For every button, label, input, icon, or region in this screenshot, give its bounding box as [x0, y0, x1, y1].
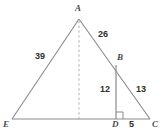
geometry-diagram: A B C D E 26 39 12 13 5	[0, 0, 163, 136]
segment-AC	[79, 19, 150, 119]
measure-label-AB: 26	[98, 30, 108, 39]
vertex-label-C: C	[152, 120, 158, 129]
diagram-canvas	[0, 0, 163, 136]
measure-label-DC: 5	[129, 120, 134, 129]
vertex-label-B: B	[117, 53, 123, 62]
vertex-label-D: D	[112, 120, 119, 129]
vertex-label-A: A	[75, 4, 81, 13]
vertex-label-E: E	[3, 120, 9, 129]
measure-label-BC: 13	[136, 85, 146, 94]
right-angle-marker-icon	[116, 112, 123, 119]
measure-label-BD: 12	[100, 85, 110, 94]
measure-label-AE: 39	[35, 52, 45, 61]
segment-AE	[12, 19, 79, 119]
